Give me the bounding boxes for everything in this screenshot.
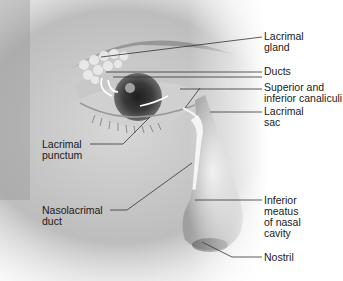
label-ducts: Ducts bbox=[264, 66, 291, 77]
label-nostril: Nostril bbox=[264, 252, 294, 263]
label-lacrimal-gland: Lacrimal gland bbox=[264, 31, 304, 53]
lacrimal-apparatus-diagram: Lacrimal gland Ducts Superior and inferi… bbox=[0, 0, 343, 281]
label-lacrimal-sac: Lacrimal sac bbox=[264, 106, 304, 128]
label-inferior-meatus: Inferior meatus of nasal cavity bbox=[264, 195, 301, 239]
label-canaliculi: Superior and inferior canaliculi bbox=[264, 82, 342, 104]
label-lacrimal-punctum: Lacrimal punctum bbox=[42, 139, 82, 161]
label-nasolacrimal-duct: Nasolacrimal duct bbox=[42, 205, 103, 227]
